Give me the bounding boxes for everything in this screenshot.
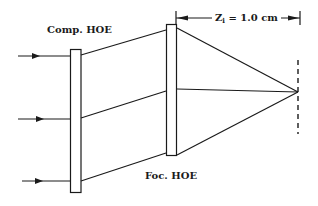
foc-hoe-label: Foc. HOE: [145, 171, 197, 181]
dimension-arrow-left-icon: [177, 16, 188, 21]
arrow-icon: [35, 178, 43, 184]
intermediate-rays: [81, 30, 166, 181]
dimension-arrow-right-icon: [288, 16, 299, 21]
arrow-icon: [36, 116, 44, 122]
foc-hoe-plate: [167, 25, 177, 156]
input-rays: [18, 56, 70, 181]
distance-label: Zi = 1.0 cm: [212, 13, 281, 24]
comp-hoe-label: Comp. HOE: [47, 25, 112, 35]
hoe-optics-diagram: Comp. HOE Foc. HOE Zi = 1.0 cm: [0, 0, 318, 206]
converging-rays: [177, 28, 298, 155]
arrow-icon: [32, 53, 40, 59]
comp-hoe-plate: [71, 50, 82, 193]
distance-value: = 1.0 cm: [225, 12, 278, 23]
